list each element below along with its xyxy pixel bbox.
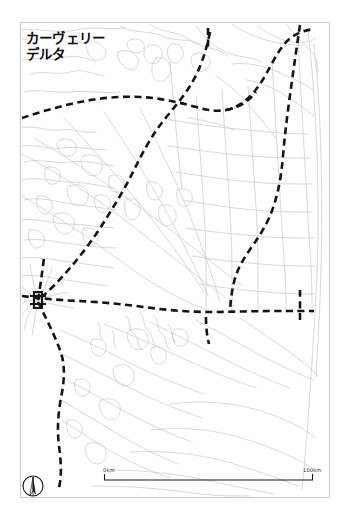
north-arrow-icon: [23, 476, 43, 496]
map-figure: カーヴェリー デルタ 0km 100km: [0, 0, 349, 528]
map-background: [0, 0, 349, 528]
map-canvas: [0, 0, 349, 528]
map-title: カーヴェリー デルタ: [26, 31, 105, 63]
scale-bar-end-label: 100km: [303, 467, 321, 473]
scale-bar-start-label: 0km: [103, 467, 115, 473]
